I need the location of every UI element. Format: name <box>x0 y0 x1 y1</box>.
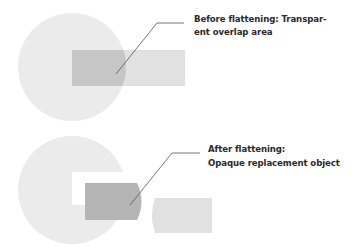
rectangle-remainder <box>152 198 212 233</box>
after-label-line2: Opaque replacement object <box>208 156 340 170</box>
before-flattening-group <box>18 13 185 121</box>
before-label-line2: ent overlap area <box>194 26 327 39</box>
before-label-line1: Before flattening: Transpar- <box>194 13 327 26</box>
after-label-line1: After flattening: <box>208 142 340 156</box>
after-label: After flattening: Opaque replacement obj… <box>208 142 340 170</box>
before-label: Before flattening: Transpar- ent overlap… <box>194 13 327 38</box>
after-flattening-group <box>18 136 212 244</box>
